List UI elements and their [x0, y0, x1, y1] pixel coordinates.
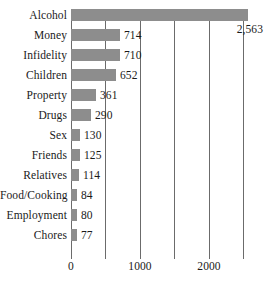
plot-area: Alcohol 2,563 Money 714 Infidelity 710 C… [0, 0, 272, 281]
bar-value-label: 114 [83, 165, 100, 185]
bar [71, 169, 79, 181]
bar [71, 69, 116, 81]
bar [71, 189, 77, 201]
bar-row: Chores 77 [0, 225, 272, 245]
category-label: Chores [0, 225, 67, 245]
bar-row: Property 361 [0, 85, 272, 105]
bar [71, 49, 120, 61]
bar-value-label: 361 [100, 85, 118, 105]
bar-value-label: 652 [120, 65, 138, 85]
bar-value-label: 714 [124, 25, 142, 45]
category-label: Alcohol [0, 5, 67, 25]
bar [71, 149, 80, 161]
bar-value-label: 84 [81, 185, 93, 205]
bar-value-label: 77 [81, 225, 93, 245]
bar-row: Money 714 [0, 25, 272, 45]
bar-row: Employment 80 [0, 205, 272, 225]
category-label: Infidelity [0, 45, 67, 65]
bar-value-label: 125 [84, 145, 102, 165]
xtick-label-1000: 1000 [120, 260, 160, 272]
bar-chart: Alcohol 2,563 Money 714 Infidelity 710 C… [0, 0, 272, 281]
bar-value-label: 80 [81, 205, 93, 225]
bar-row: Alcohol 2,563 [0, 5, 272, 25]
category-label: Sex [0, 125, 67, 145]
xtick-label-0: 0 [51, 260, 91, 272]
bar-value-label: 710 [124, 45, 142, 65]
bar-row: Infidelity 710 [0, 45, 272, 65]
category-label: Friends [0, 145, 67, 165]
bar-row: Sex 130 [0, 125, 272, 145]
category-label: Employment [0, 205, 67, 225]
bar [71, 29, 120, 41]
category-label: Relatives [0, 165, 67, 185]
bar [71, 109, 91, 121]
category-label: Children [0, 65, 67, 85]
xtick-label-2000: 2000 [189, 260, 229, 272]
bar [71, 129, 80, 141]
bar-value-label: 130 [84, 125, 102, 145]
category-label: Property [0, 85, 67, 105]
bar-row: Relatives 114 [0, 165, 272, 185]
category-label: Drugs [0, 105, 67, 125]
category-label: Food/Cooking [0, 185, 67, 205]
bar [71, 89, 96, 101]
category-label: Money [0, 25, 67, 45]
bar-row: Food/Cooking 84 [0, 185, 272, 205]
bar [71, 209, 77, 221]
bar [71, 229, 77, 241]
bar-value-label: 290 [95, 105, 113, 125]
bar-row: Children 652 [0, 65, 272, 85]
bar-row: Friends 125 [0, 145, 272, 165]
bar-row: Drugs 290 [0, 105, 272, 125]
